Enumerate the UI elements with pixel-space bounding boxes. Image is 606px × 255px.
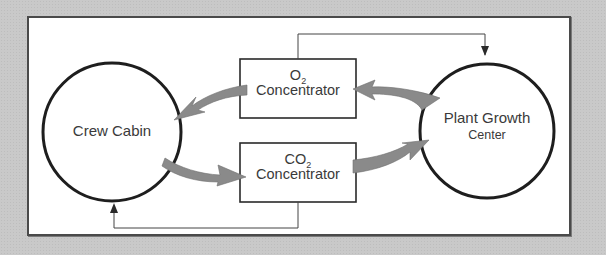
co2-main: CO [285,151,307,167]
co2-line2: Concentrator [240,167,356,182]
plant-to-o2-flow-arrow-icon [353,80,440,110]
o2-to-plant-arrowhead-icon [481,46,489,56]
o2-main: O [290,67,301,83]
crew-cabin-text: Crew Cabin [73,122,151,139]
o2-concentrator-label: O2 Concentrator [240,68,356,98]
o2-line2: Concentrator [240,83,356,98]
o2-to-plant-line [298,34,485,59]
plant-growth-label: Plant Growth Center [427,110,547,142]
o2-to-crew-flow-arrow-icon [174,85,247,120]
co2-to-crew-arrowhead-icon [110,203,118,213]
co2-to-crew-line [114,202,298,228]
plant-growth-line1: Plant Growth [427,110,547,126]
plant-growth-line2: Center [427,129,547,142]
co2-concentrator-label: CO2 Concentrator [240,152,356,182]
crew-cabin-label: Crew Cabin [52,123,172,139]
co2-to-plant-flow-arrow-icon [353,140,429,173]
o2-subscript: 2 [301,76,306,86]
co2-subscript: 2 [306,160,311,170]
